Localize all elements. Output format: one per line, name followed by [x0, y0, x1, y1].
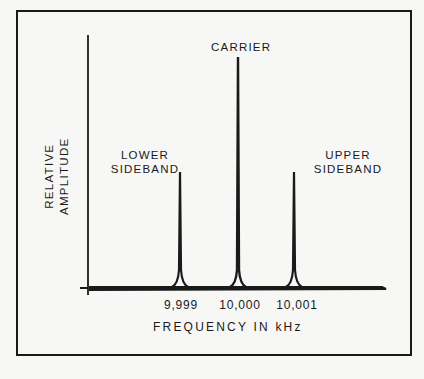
- y-axis-label: RELATIVE AMPLITUDE: [42, 137, 72, 215]
- upper-sideband-peak: [286, 172, 302, 287]
- upper-sideband-label: UPPER SIDEBAND: [303, 148, 393, 176]
- y-axis-label-line2: AMPLITUDE: [57, 137, 72, 215]
- lower-sideband-line2: SIDEBAND: [100, 162, 190, 176]
- x-axis-label: FREQUENCY IN kHz: [153, 320, 303, 334]
- tick-label-9999: 9,999: [164, 298, 198, 312]
- carrier-peak: [230, 57, 246, 287]
- x-axis-baseline: [80, 287, 386, 290]
- lower-sideband-label: LOWER SIDEBAND: [100, 148, 190, 176]
- tick-label-10000: 10,000: [219, 298, 261, 312]
- carrier-label: CARRIER: [211, 40, 271, 54]
- y-axis-label-line1: RELATIVE: [42, 137, 57, 215]
- upper-sideband-line2: SIDEBAND: [303, 162, 393, 176]
- lower-sideband-peak: [172, 172, 188, 287]
- upper-sideband-line1: UPPER: [303, 148, 393, 162]
- lower-sideband-line1: LOWER: [100, 148, 190, 162]
- tick-label-10001: 10,001: [276, 298, 318, 312]
